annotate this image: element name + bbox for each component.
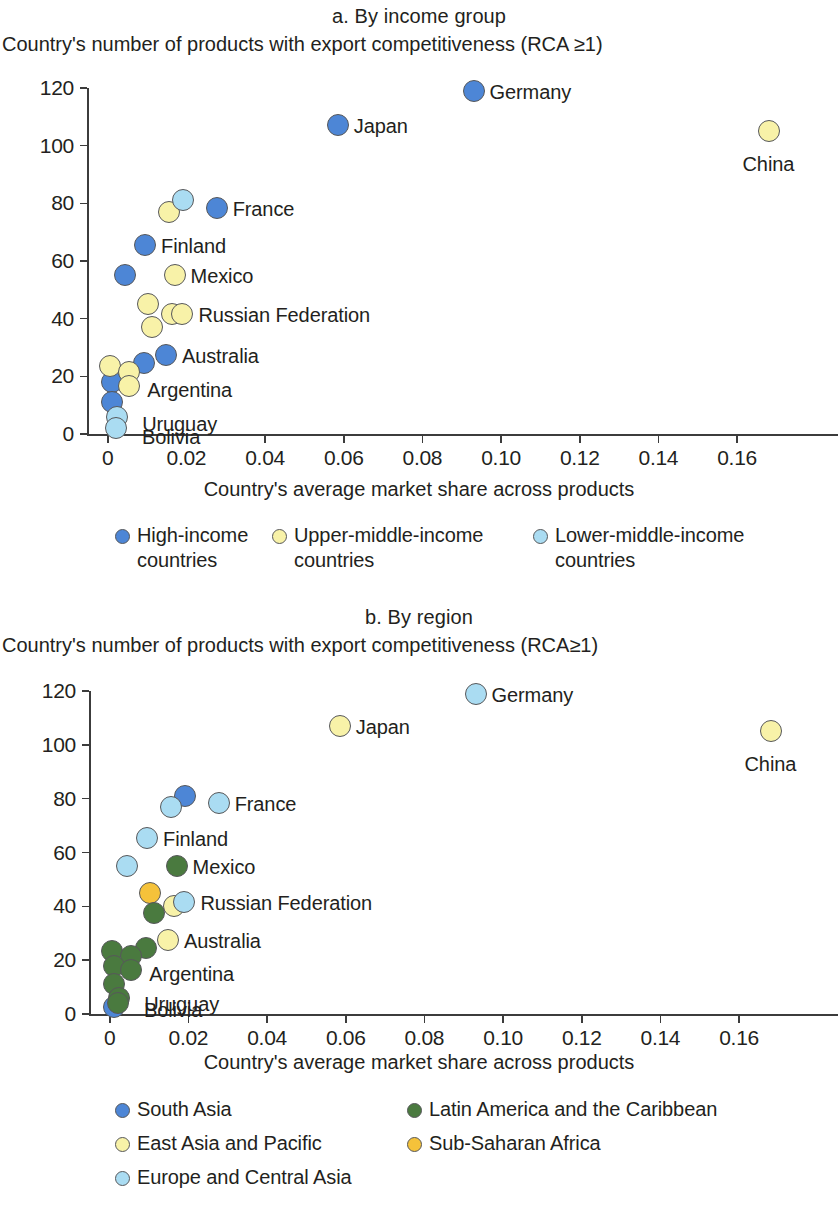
panel-b-legend: South AsiaLatin America and the Caribbea…: [0, 1097, 838, 1207]
scatter-point-label: Germany: [490, 80, 572, 103]
x-axis-tick-label: 0.16: [719, 1026, 759, 1050]
legend-item: Upper-middle-income countries: [272, 523, 483, 573]
scatter-point: [208, 792, 230, 814]
scatter-point: [160, 796, 182, 818]
x-axis-tick-label: 0.06: [324, 446, 364, 470]
x-axis-tick-label: 0: [104, 1026, 115, 1050]
legend-swatch-icon: [533, 529, 548, 544]
scatter-point: [164, 264, 186, 286]
x-axis-tick-label: 0.04: [245, 446, 285, 470]
legend-label: High-income countries: [137, 523, 248, 573]
legend-swatch-icon: [115, 1171, 130, 1186]
scatter-point-label: France: [235, 792, 297, 815]
scatter-point: [157, 929, 179, 951]
y-axis-tick-label: 20: [0, 364, 74, 388]
x-axis-tick: [264, 436, 266, 443]
legend-label: Europe and Central Asia: [137, 1165, 352, 1190]
y-axis-tick: [80, 87, 87, 89]
legend-label: Sub-Saharan Africa: [429, 1131, 601, 1156]
scatter-point: [155, 344, 177, 366]
scatter-point: [139, 882, 161, 904]
scatter-point-label: Argentina: [147, 379, 232, 402]
y-axis-tick: [82, 798, 89, 800]
x-axis-tick: [736, 436, 738, 443]
y-axis-tick-label: 20: [0, 948, 76, 972]
panel-a-x-axis-title: Country's average market share across pr…: [0, 478, 838, 501]
x-axis-tick: [579, 436, 581, 443]
scatter-point-label: Finland: [163, 827, 228, 850]
panel-by-income-group: a. By income group Country's number of p…: [0, 0, 838, 600]
x-axis-tick: [266, 1016, 268, 1023]
legend-item: Europe and Central Asia: [115, 1165, 352, 1190]
scatter-point-label: China: [745, 753, 797, 776]
legend-swatch-icon: [272, 529, 287, 544]
scatter-point-label: Argentina: [149, 962, 234, 985]
x-axis-tick-label: 0.12: [562, 1026, 602, 1050]
x-axis-tick: [502, 1016, 504, 1023]
scatter-point: [134, 234, 156, 256]
y-axis-tick: [80, 433, 87, 435]
x-axis-tick: [343, 436, 345, 443]
x-axis-tick-label: 0.02: [169, 1026, 209, 1050]
scatter-point-label: Japan: [354, 115, 408, 138]
scatter-point: [760, 720, 782, 742]
x-axis-tick-label: 0.14: [641, 1026, 681, 1050]
y-axis-line: [87, 88, 89, 434]
scatter-point: [172, 189, 194, 211]
scatter-point-label: Bolivia: [144, 999, 202, 1022]
y-axis-tick-label: 60: [0, 249, 74, 273]
y-axis-tick: [80, 376, 87, 378]
x-axis-tick: [424, 1016, 426, 1023]
x-axis-tick-label: 0.06: [326, 1026, 366, 1050]
x-axis-tick: [738, 1016, 740, 1023]
scatter-point-label: Bolivia: [142, 426, 200, 449]
scatter-point: [120, 959, 142, 981]
scatter-point: [166, 855, 188, 877]
x-axis-tick: [660, 1016, 662, 1023]
y-axis-tick: [80, 318, 87, 320]
y-axis-tick: [80, 260, 87, 262]
scatter-point-label: Mexico: [193, 855, 256, 878]
x-axis-tick-label: 0.10: [481, 446, 521, 470]
x-axis-tick-label: 0.04: [247, 1026, 287, 1050]
scatter-point-label: Russian Federation: [198, 304, 370, 327]
scatter-point: [465, 683, 487, 705]
y-axis-tick-label: 0: [0, 422, 74, 446]
x-axis-tick: [345, 1016, 347, 1023]
x-axis-tick-label: 0.12: [560, 446, 600, 470]
y-axis-tick-label: 60: [0, 841, 76, 865]
legend-swatch-icon: [115, 529, 130, 544]
scatter-point: [118, 375, 140, 397]
x-axis-tick: [658, 436, 660, 443]
scatter-point: [141, 316, 163, 338]
scatter-point: [206, 197, 228, 219]
scatter-point-label: Mexico: [191, 265, 254, 288]
panel-a-legend: High-income countriesUpper-middle-income…: [0, 523, 838, 593]
y-axis-tick-label: 80: [0, 191, 74, 215]
legend-item: Sub-Saharan Africa: [407, 1131, 601, 1156]
x-axis-tick-label: 0.08: [403, 446, 443, 470]
legend-swatch-icon: [407, 1137, 422, 1152]
panel-b-plot-area: 02040608010012000.020.040.060.080.100.12…: [0, 601, 838, 1051]
y-axis-line: [89, 691, 91, 1014]
y-axis-tick: [82, 744, 89, 746]
scatter-point: [136, 827, 158, 849]
legend-label: Latin America and the Caribbean: [429, 1097, 717, 1122]
scatter-point-label: Australia: [184, 929, 261, 952]
scatter-point-label: Germany: [492, 683, 574, 706]
legend-label: Lower-middle-income countries: [555, 523, 744, 573]
scatter-point: [116, 855, 138, 877]
scatter-point-label: Russian Federation: [200, 892, 372, 915]
panel-by-region: b. By region Country's number of product…: [0, 601, 838, 1207]
scatter-point: [463, 80, 485, 102]
legend-item: East Asia and Pacific: [115, 1131, 322, 1156]
y-axis-tick-label: 100: [0, 134, 74, 158]
scatter-point-label: Finland: [161, 235, 226, 258]
panel-b-x-axis-title: Country's average market share across pr…: [0, 1051, 838, 1074]
y-axis-tick: [80, 203, 87, 205]
y-axis-tick-label: 80: [0, 787, 76, 811]
y-axis-tick: [80, 145, 87, 147]
scatter-point-label: China: [743, 153, 795, 176]
scatter-point: [114, 264, 136, 286]
scatter-point-label: Japan: [356, 715, 410, 738]
